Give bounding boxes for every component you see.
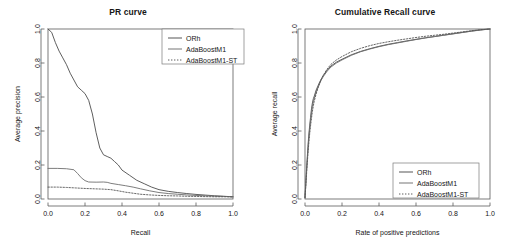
cumulative-recall-plot: 0.00.20.40.60.81.00.00.20.40.60.81.0Rate… [257,0,513,252]
y-tick-label: 0.8 [291,58,298,68]
x-tick-label: 0.0 [43,210,53,217]
y-tick-label: 1.0 [34,24,41,34]
pr-curve-plot: 0.00.20.40.60.81.00.00.20.40.60.81.0Reca… [0,0,256,252]
legend-label-orh: ORh [186,35,201,42]
y-tick-label: 0.0 [34,194,41,204]
y-axis-title: Average recall [271,91,279,136]
x-tick-label: 0.6 [411,210,421,217]
x-tick-label: 0.0 [300,210,310,217]
y-tick-label: 0.6 [34,92,41,102]
y-tick-label: 0.8 [34,58,41,68]
y-tick-label: 0.4 [291,126,298,136]
legend-label-adaboostm1-st: AdaBoostM1-ST [417,191,469,198]
x-axis-title: Recall [131,229,151,236]
y-tick-label: 1.0 [291,24,298,34]
y-tick-label: 0.0 [291,194,298,204]
y-tick-label: 0.2 [291,160,298,170]
x-tick-label: 1.0 [485,210,495,217]
legend-label-adaboostm1: AdaBoostM1 [417,180,457,187]
x-tick-label: 0.8 [191,210,201,217]
x-tick-label: 0.8 [448,210,458,217]
panel-cumulative-recall: Cumulative Recall curve 0.00.20.40.60.81… [257,0,513,252]
y-tick-label: 0.6 [291,92,298,102]
x-tick-label: 0.4 [374,210,384,217]
legend-label-adaboostm1: AdaBoostM1 [186,46,226,53]
x-tick-label: 0.2 [337,210,347,217]
figure-canvas: PR curve 0.00.20.40.60.81.00.00.20.40.60… [0,0,513,252]
x-tick-label: 1.0 [228,210,238,217]
x-tick-label: 0.6 [154,210,164,217]
x-tick-label: 0.4 [117,210,127,217]
x-axis-title: Rate of positive predictions [355,229,440,237]
series-line-adaboostm1 [48,168,233,196]
y-tick-label: 0.4 [34,126,41,136]
x-tick-label: 0.2 [80,210,90,217]
y-tick-label: 0.2 [34,160,41,170]
legend-label-adaboostm1-st: AdaBoostM1-ST [186,57,238,64]
legend-label-orh: ORh [417,169,432,176]
panel-pr-curve: PR curve 0.00.20.40.60.81.00.00.20.40.60… [0,0,256,252]
y-axis-title: Average precision [14,86,22,142]
